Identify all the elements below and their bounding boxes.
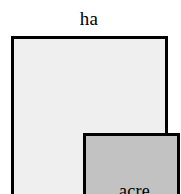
acre-square: acre <box>83 133 180 194</box>
hectare-square: acre <box>11 36 168 194</box>
acre-label: acre <box>86 181 181 194</box>
hectare-label: ha <box>0 8 178 30</box>
area-comparison-figure: ha acre <box>0 0 181 194</box>
